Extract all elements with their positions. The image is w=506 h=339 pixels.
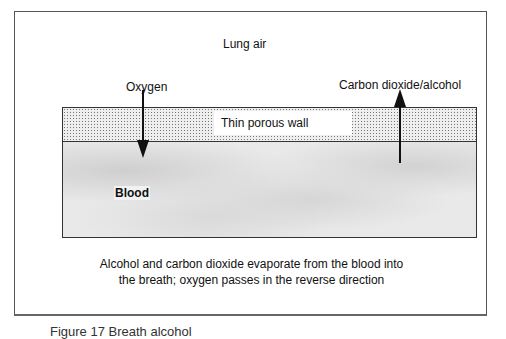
caption-line-2: the breath; oxygen passes in the reverse… [15, 272, 488, 288]
diagram-caption: Alcohol and carbon dioxide evaporate fro… [15, 256, 488, 288]
blood-region: Blood [62, 142, 477, 238]
co2-arrow-shaft [399, 98, 401, 163]
lung-air-label: Lung air [223, 37, 266, 51]
blood-label: Blood [114, 186, 150, 200]
diagram-frame: Lung air Oxygen Carbon dioxide/alcohol T… [14, 11, 487, 316]
oxygen-label: Oxygen [126, 80, 167, 94]
wall-label: Thin porous wall [221, 116, 308, 130]
figure-caption: Figure 17 Breath alcohol [50, 324, 192, 339]
oxygen-arrow-down-icon [137, 140, 149, 158]
caption-line-1: Alcohol and carbon dioxide evaporate fro… [15, 256, 488, 272]
oxygen-arrow-shaft [142, 90, 144, 146]
wall-label-bg: Thin porous wall [214, 111, 352, 135]
co2-arrow-up-icon [394, 89, 406, 107]
